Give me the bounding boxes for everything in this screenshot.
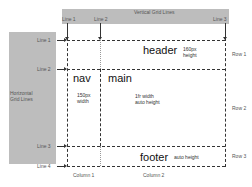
vertical-line-3-arrow-icon: [225, 23, 226, 38]
grid-row-line-2: [67, 69, 225, 70]
grid-column-line-3: [225, 38, 226, 167]
horizontal-line-1-arrow-icon: [57, 40, 65, 41]
horizontal-line-1-label: Line 1: [37, 37, 51, 43]
vertical-grid-lines-title: Vertical Grid Lines: [134, 9, 175, 15]
horizontal-line-4-label: Line 4: [37, 163, 51, 169]
horizontal-line-3-arrow-icon: [57, 146, 65, 147]
row-2-label: Row 2: [232, 105, 246, 111]
vertical-line-2-arrow-icon: [100, 23, 101, 38]
main-area-label: main: [108, 72, 132, 84]
horizontal-line-2-label: Line 2: [37, 66, 51, 72]
horizontal-line-3-label: Line 3: [37, 143, 51, 149]
main-note-2: auto height: [135, 99, 160, 105]
vertical-line-1-arrow-icon: [67, 23, 68, 38]
column-1-label: Column 1: [73, 172, 94, 178]
footer-area-label: footer: [140, 151, 168, 163]
vertical-line-2-label: Line 2: [94, 16, 108, 22]
vertical-line-1-label: Line 1: [62, 16, 76, 22]
footer-note: auto height: [174, 154, 199, 160]
grid-column-line-2-footer-segment: [100, 146, 101, 166]
row-1-label: Row 1: [232, 51, 246, 57]
horizontal-line-2-arrow-icon: [57, 69, 65, 70]
grid-row-line-4: [67, 166, 225, 167]
header-note-2: height: [183, 52, 197, 58]
horizontal-grid-lines-title-2: Grid Lines: [10, 96, 33, 102]
vertical-line-3-label: Line 3: [213, 16, 227, 22]
column-2-label: Column 2: [143, 172, 164, 178]
nav-note-2: width: [77, 98, 89, 104]
grid-row-line-3: [67, 146, 225, 147]
horizontal-line-4-arrow-icon: [57, 166, 65, 167]
grid-column-line-2-header-segment: [100, 40, 101, 69]
nav-area-label: nav: [73, 72, 91, 84]
grid-row-line-1: [67, 40, 225, 41]
grid-column-line-1: [67, 38, 68, 167]
grid-column-line-2: [100, 69, 101, 146]
row-3-label: Row 3: [232, 153, 246, 159]
header-area-label: header: [143, 44, 177, 56]
